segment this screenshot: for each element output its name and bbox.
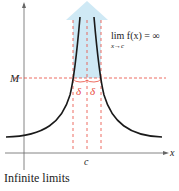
m-label: M: [9, 72, 20, 84]
delta-left-label: δ: [76, 85, 82, 97]
c-label: c: [84, 156, 89, 167]
figure-caption: Infinite limits: [4, 171, 70, 186]
x-label: x: [169, 147, 175, 158]
y-axis-arrow-icon: [22, 2, 26, 8]
limit-subscript: x→c: [110, 42, 125, 50]
x-axis-arrow-icon: [163, 151, 169, 155]
delta-brace-left: [73, 79, 87, 82]
delta-right-label: δ: [90, 85, 96, 97]
limit-formula: lim f(x) = ∞: [111, 30, 160, 42]
delta-brace-right: [87, 79, 101, 82]
graph: M δ δ c x lim f(x) = ∞ x→c: [0, 0, 179, 191]
